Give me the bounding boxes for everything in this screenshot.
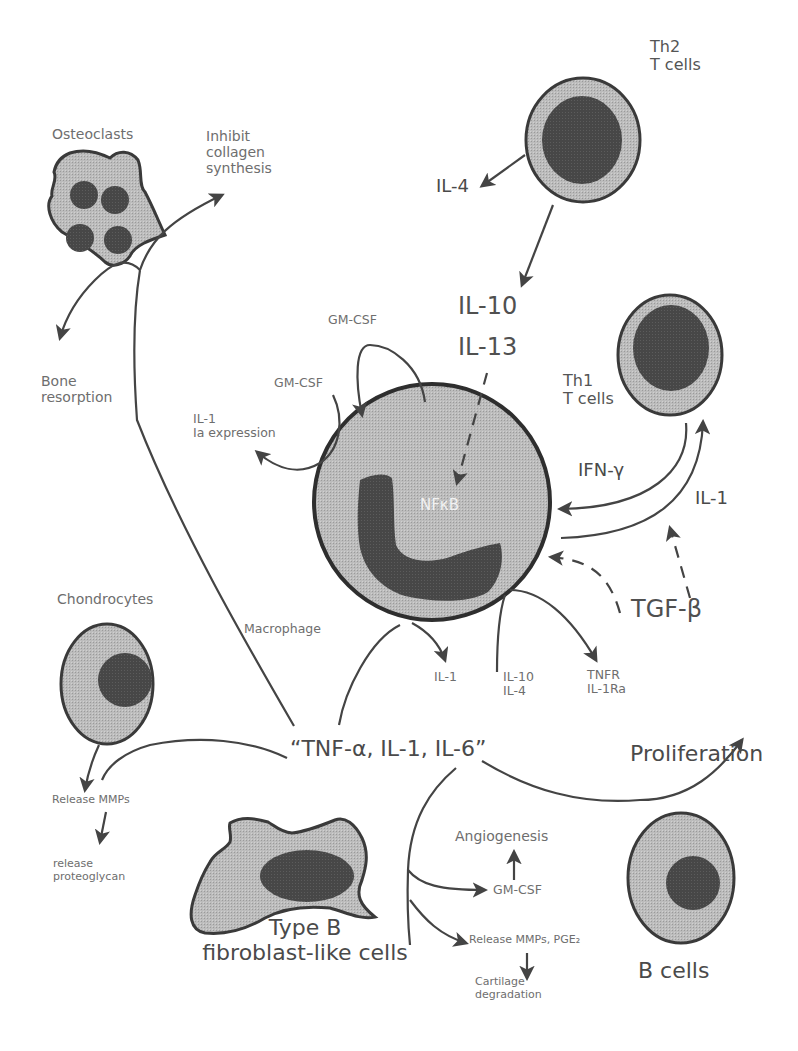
proliferation-label: Proliferation xyxy=(630,741,763,766)
release-proteo-line2: proteoglycan xyxy=(53,871,125,884)
il1-bottom-label: IL-1 xyxy=(434,670,457,684)
bone-line2: resorption xyxy=(41,389,112,405)
gmcsf-left-label: GM-CSF xyxy=(274,376,323,390)
fibroblast-label-line1: Type B xyxy=(202,915,407,940)
gmcsf-top-label: GM-CSF xyxy=(328,313,377,327)
inhibit-line3: synthesis xyxy=(206,160,272,176)
il10-label: IL-10 xyxy=(458,293,517,321)
th1-label-line1: Th1 xyxy=(563,372,614,390)
il1-ia-line1: IL-1 xyxy=(193,412,276,426)
inhibit-line1: Inhibit xyxy=(206,128,272,144)
fibroblast-label-line2: fibroblast-like cells xyxy=(202,940,407,965)
b-cell-icon xyxy=(628,813,734,943)
il1-right-label: IL-1 xyxy=(695,488,728,509)
th1-label-line2: T cells xyxy=(563,390,614,408)
cartilage-line1: Cartilage xyxy=(475,976,542,989)
tgf-beta-label: TGF-β xyxy=(631,596,702,624)
bone-line1: Bone xyxy=(41,373,112,389)
cartilage-line2: degradation xyxy=(475,989,542,1002)
macrophage-label: Macrophage xyxy=(244,622,321,636)
osteoclasts-label: Osteoclasts xyxy=(52,126,133,142)
cartilage-degradation-label: Cartilage degradation xyxy=(475,976,542,1001)
il10-il4-label: IL-10 IL-4 xyxy=(503,670,534,699)
release-proteoglycan-label: release proteoglycan xyxy=(53,858,125,883)
b-cells-label: B cells xyxy=(638,958,709,983)
inhibit-line2: collagen xyxy=(206,144,272,160)
tnfr-line2: IL-1Ra xyxy=(587,682,626,696)
il4-top-label: IL-4 xyxy=(436,176,469,197)
immune-cytokine-diagram: Th2 T cells Th1 T cells Osteoclasts Chon… xyxy=(0,0,798,1051)
th2-label: Th2 T cells xyxy=(650,38,701,75)
th2-label-line1: Th2 xyxy=(650,38,701,56)
il10-il4-line2: IL-4 xyxy=(503,684,534,698)
fibroblast-label: Type B fibroblast-like cells xyxy=(202,915,407,966)
tnf-il1-il6-label: “TNF-α, IL-1, IL-6” xyxy=(290,736,486,761)
bone-resorption-label: Bone resorption xyxy=(41,373,112,405)
il1-ia-line2: Ia expression xyxy=(193,426,276,440)
il1-ia-expression-label: IL-1 Ia expression xyxy=(193,412,276,441)
inhibit-collagen-label: Inhibit collagen synthesis xyxy=(206,128,272,176)
il13-label: IL-13 xyxy=(458,334,517,362)
gmcsf-bottom-label: GM-CSF xyxy=(493,883,542,897)
osteoclast-cell-icon xyxy=(49,151,165,265)
ifn-gamma-label: IFN-γ xyxy=(578,460,624,481)
th1-label: Th1 T cells xyxy=(563,372,614,409)
nfkb-label: NFκB xyxy=(420,497,459,514)
release-mmps-label: Release MMPs xyxy=(52,794,130,807)
chondrocytes-label: Chondrocytes xyxy=(57,591,153,607)
il10-il4-line1: IL-10 xyxy=(503,670,534,684)
diagram-graphics xyxy=(0,0,798,1051)
release-proteo-line1: release xyxy=(53,858,125,871)
th1-t-cell-icon xyxy=(618,295,722,415)
th2-t-cell-icon xyxy=(526,78,640,202)
release-mmps-pge2-label: Release MMPs, PGE₂ xyxy=(469,934,580,947)
tnfr-il1ra-label: TNFR IL-1Ra xyxy=(587,668,626,697)
tnfr-line1: TNFR xyxy=(587,668,626,682)
th2-label-line2: T cells xyxy=(650,56,701,74)
angiogenesis-label: Angiogenesis xyxy=(455,828,548,844)
chondrocyte-cell-icon xyxy=(61,624,153,744)
